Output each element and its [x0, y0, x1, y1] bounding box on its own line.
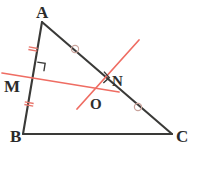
tick-on-AM — [28, 47, 37, 51]
point-label-o: O — [90, 97, 102, 112]
point-label-n: N — [112, 74, 123, 89]
vertex-label-a: A — [36, 4, 48, 21]
vertex-label-b: B — [10, 128, 21, 145]
vertex-label-c: C — [176, 128, 188, 145]
triangle-sides — [23, 22, 172, 134]
side-AC — [42, 22, 172, 134]
right-angle-at-M — [36, 62, 45, 71]
point-label-m: M — [4, 78, 20, 95]
geometry-canvas — [0, 0, 197, 181]
geometry-figure: A B C M N O — [0, 0, 197, 181]
